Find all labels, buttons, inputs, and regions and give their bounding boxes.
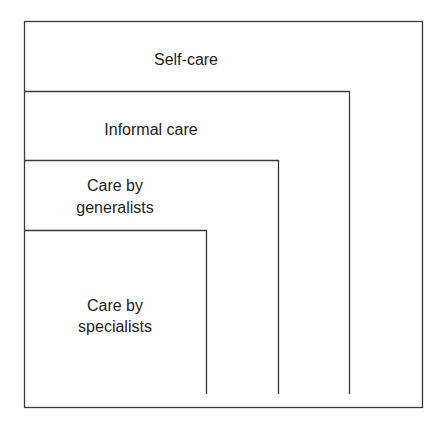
- specialists-label-line-2: specialists: [78, 318, 152, 335]
- generalists-care-box: [25, 161, 279, 395]
- specialists-label-line-1: Care by: [87, 297, 143, 314]
- self-care-label: Self-care: [154, 51, 218, 68]
- informal-care-label: Informal care: [104, 121, 197, 138]
- care-levels-diagram: Self-care Informal care Care by generali…: [0, 0, 442, 428]
- generalists-label-line-1: Care by: [87, 177, 143, 194]
- generalists-label-line-2: generalists: [76, 199, 153, 216]
